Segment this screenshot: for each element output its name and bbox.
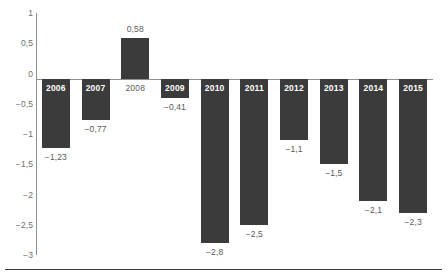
y-axis-tick-label: −3 <box>1 251 33 260</box>
bar <box>399 79 427 213</box>
y-axis-tick-labels: 10,50−0,5−1−1,5−2−2,5−3 <box>0 0 33 276</box>
bar-value-label: −1,23 <box>35 153 77 162</box>
bar-value-label: −0,77 <box>75 125 117 134</box>
y-axis-tick-label: 1 <box>1 9 33 18</box>
bar-value-label: −1,5 <box>313 169 355 178</box>
bar-group: 2014−2,1 <box>359 0 387 276</box>
plot-area: 10,50−0,5−1−1,5−2−2,5−3 2006−1,232007−0,… <box>0 0 447 276</box>
bar-category-label: 2013 <box>320 84 348 93</box>
bar-group: 20080,58 <box>121 0 149 276</box>
bar-category-label: 2006 <box>42 84 70 93</box>
bar-category-label: 2010 <box>201 84 229 93</box>
bar-group: 2007−0,77 <box>82 0 110 276</box>
bar-value-label: −0,41 <box>154 103 196 112</box>
bar-category-label: 2012 <box>280 84 308 93</box>
bar-group: 2006−1,23 <box>42 0 70 276</box>
bar-group: 2015−2,3 <box>399 0 427 276</box>
bar <box>201 79 229 243</box>
bar-group: 2012−1,1 <box>280 0 308 276</box>
bar <box>359 79 387 201</box>
bars-container: 2006−1,232007−0,7720080,582009−0,412010−… <box>36 0 433 276</box>
bottom-rule <box>5 269 442 270</box>
y-axis-tick-label: 0 <box>1 70 33 79</box>
y-axis-tick-label: −1,5 <box>1 160 33 169</box>
bar <box>121 38 149 79</box>
bar-value-label: 0,58 <box>114 25 156 34</box>
y-axis-tick-label: 0,5 <box>1 39 33 48</box>
bar-value-label: −1,1 <box>273 145 315 154</box>
bar-group: 2013−1,5 <box>320 0 348 276</box>
bar-value-label: −2,8 <box>194 248 236 257</box>
y-axis-tick-label: −0,5 <box>1 100 33 109</box>
bar-category-label: 2008 <box>121 84 149 93</box>
y-axis-tick-label: −2,5 <box>1 221 33 230</box>
bar-group: 2011−2,5 <box>240 0 268 276</box>
bar-category-label: 2014 <box>359 84 387 93</box>
bar <box>240 79 268 225</box>
bar-category-label: 2015 <box>399 84 427 93</box>
bar-chart: 10,50−0,5−1−1,5−2−2,5−3 2006−1,232007−0,… <box>0 0 447 276</box>
bar-group: 2009−0,41 <box>161 0 189 276</box>
bar-value-label: −2,3 <box>392 218 434 227</box>
bar-group: 2010−2,8 <box>201 0 229 276</box>
bar-category-label: 2011 <box>240 84 268 93</box>
bar-category-label: 2007 <box>82 84 110 93</box>
y-axis-tick-label: −1 <box>1 130 33 139</box>
bar-category-label: 2009 <box>161 84 189 93</box>
bar-value-label: −2,1 <box>352 206 394 215</box>
y-axis-tick-label: −2 <box>1 191 33 200</box>
bar-value-label: −2,5 <box>233 230 275 239</box>
